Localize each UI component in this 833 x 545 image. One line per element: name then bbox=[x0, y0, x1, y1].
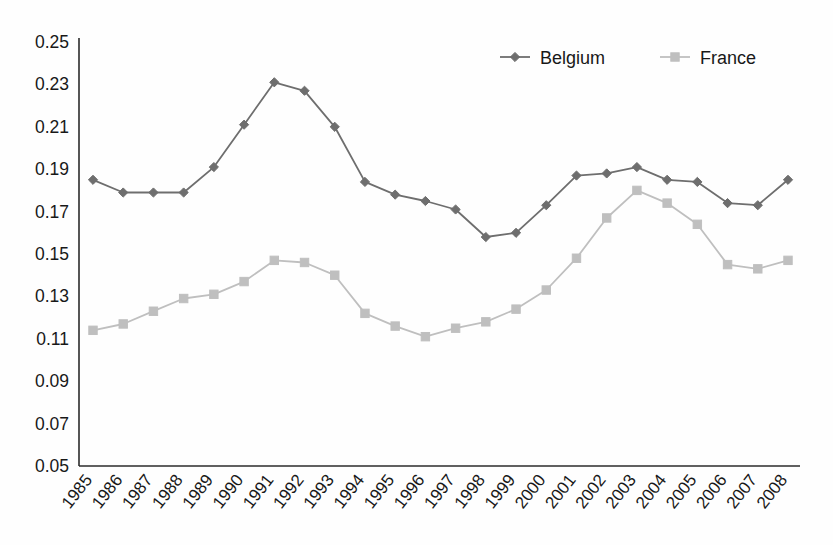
x-tick-label: 1985 bbox=[58, 471, 96, 513]
data-point-marker bbox=[119, 320, 127, 328]
x-tick-label: 2007 bbox=[723, 471, 761, 513]
data-point-marker bbox=[360, 177, 369, 186]
x-tick-label: 1991 bbox=[239, 471, 277, 513]
x-tick-label: 2004 bbox=[632, 471, 670, 513]
x-tick-label: 1992 bbox=[269, 471, 307, 513]
x-tick-label: 2002 bbox=[572, 471, 610, 513]
data-point-marker bbox=[572, 254, 580, 262]
data-point-marker bbox=[300, 258, 308, 266]
x-tick-label: 2008 bbox=[753, 471, 791, 513]
x-tick-label: 1998 bbox=[451, 471, 489, 513]
data-point-marker bbox=[632, 162, 641, 171]
x-tick-label: 1987 bbox=[118, 471, 156, 513]
x-tick-label: 1996 bbox=[390, 471, 428, 513]
data-point-marker bbox=[361, 309, 369, 317]
x-tick-label: 2000 bbox=[511, 471, 549, 513]
data-point-marker bbox=[784, 256, 792, 264]
data-point-marker bbox=[270, 256, 278, 264]
x-tick-label: 1986 bbox=[88, 471, 126, 513]
data-point-marker bbox=[421, 332, 429, 340]
y-tick-label: 0.23 bbox=[35, 74, 69, 94]
data-point-marker bbox=[633, 186, 641, 194]
chart-figure: 0.250.230.210.190.170.150.130.110.090.07… bbox=[0, 0, 833, 545]
x-tick-label: 2006 bbox=[692, 471, 730, 513]
x-tick-label: 1989 bbox=[179, 471, 217, 513]
x-tick-label: 1999 bbox=[481, 471, 519, 513]
x-tick-label: 1988 bbox=[149, 471, 187, 513]
data-point-marker bbox=[451, 324, 459, 332]
data-point-marker bbox=[421, 196, 430, 205]
data-point-marker bbox=[723, 260, 731, 268]
data-point-marker bbox=[179, 294, 187, 302]
data-point-marker bbox=[693, 220, 701, 228]
y-tick-label: 0.21 bbox=[35, 117, 69, 137]
data-point-marker bbox=[149, 188, 158, 197]
x-tick-label: 1993 bbox=[300, 471, 338, 513]
series-line bbox=[93, 190, 788, 336]
data-point-marker bbox=[149, 307, 157, 315]
data-point-marker bbox=[89, 326, 97, 334]
y-tick-label: 0.05 bbox=[35, 456, 69, 476]
y-tick-label: 0.25 bbox=[35, 32, 69, 52]
data-point-marker bbox=[663, 175, 672, 184]
y-tick-label: 0.13 bbox=[35, 286, 69, 306]
legend-label: France bbox=[700, 48, 756, 68]
x-tick-label: 2003 bbox=[602, 471, 640, 513]
line-chart-plot: 0.250.230.210.190.170.150.130.110.090.07… bbox=[0, 0, 833, 545]
data-point-marker bbox=[754, 265, 762, 273]
data-point-marker bbox=[210, 290, 218, 298]
data-point-marker bbox=[88, 175, 97, 184]
data-point-marker bbox=[663, 199, 671, 207]
data-point-marker bbox=[391, 190, 400, 199]
data-point-marker bbox=[542, 286, 550, 294]
data-point-marker bbox=[119, 188, 128, 197]
y-axis-tick-labels: 0.250.230.210.190.170.150.130.110.090.07… bbox=[35, 32, 69, 476]
data-point-marker bbox=[602, 214, 610, 222]
data-point-marker bbox=[482, 318, 490, 326]
data-point-marker bbox=[391, 322, 399, 330]
series-layer bbox=[88, 78, 792, 341]
y-tick-label: 0.07 bbox=[35, 414, 69, 434]
y-tick-label: 0.17 bbox=[35, 202, 69, 222]
x-tick-label: 1997 bbox=[420, 471, 458, 513]
x-tick-label: 1995 bbox=[360, 471, 398, 513]
x-tick-label: 1994 bbox=[330, 471, 368, 513]
y-tick-label: 0.11 bbox=[36, 329, 69, 349]
chart-legend: BelgiumFrance bbox=[500, 48, 756, 68]
data-point-marker bbox=[510, 52, 519, 61]
x-tick-label: 1990 bbox=[209, 471, 247, 513]
data-point-marker bbox=[671, 53, 679, 61]
y-tick-label: 0.15 bbox=[35, 244, 69, 264]
y-tick-label: 0.09 bbox=[35, 371, 69, 391]
x-tick-label: 2005 bbox=[662, 471, 700, 513]
x-axis-tick-labels: 1985198619871988198919901991199219931994… bbox=[58, 471, 791, 513]
series-france bbox=[89, 186, 792, 341]
data-point-marker bbox=[602, 169, 611, 178]
legend-item-belgium[interactable]: Belgium bbox=[500, 48, 605, 68]
legend-item-france[interactable]: France bbox=[660, 48, 756, 68]
x-tick-label: 2001 bbox=[541, 471, 579, 513]
legend-label: Belgium bbox=[540, 48, 605, 68]
data-point-marker bbox=[331, 271, 339, 279]
data-point-marker bbox=[512, 305, 520, 313]
y-tick-label: 0.19 bbox=[35, 159, 69, 179]
data-point-marker bbox=[240, 277, 248, 285]
